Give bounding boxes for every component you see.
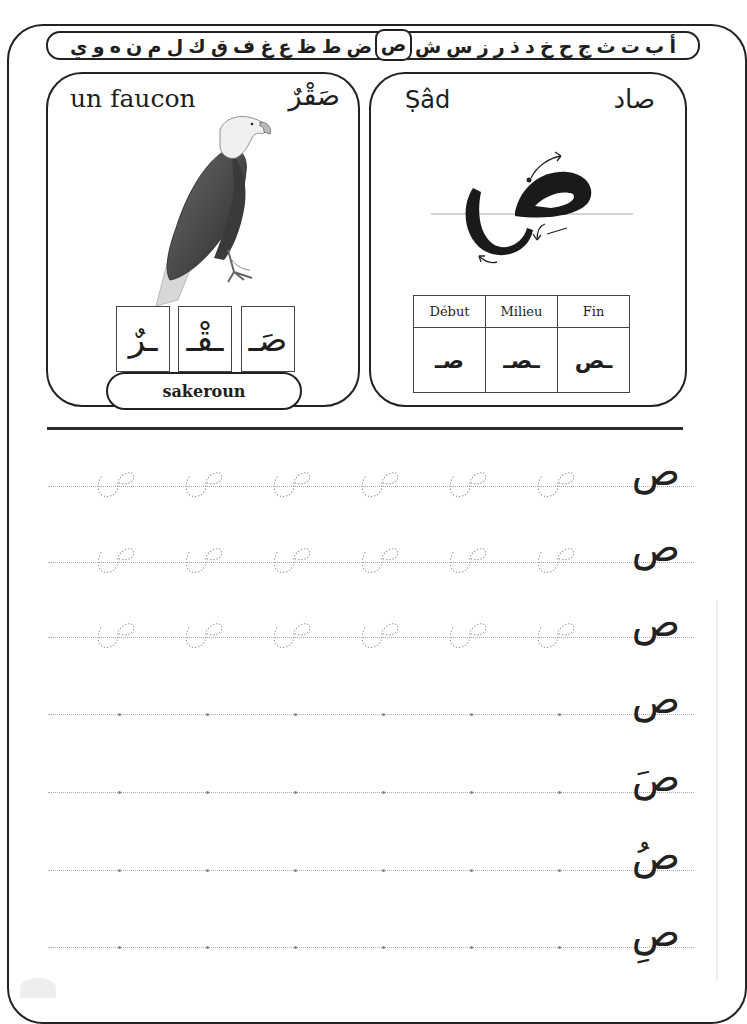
start-dot[interactable] [118, 869, 121, 872]
alphabet-letter: د [522, 34, 537, 58]
alphabet-letter: ت [618, 34, 642, 58]
model-letter: ص [632, 599, 680, 645]
trace-letter[interactable] [88, 613, 140, 653]
model-letter: ص [632, 676, 680, 722]
start-dot[interactable] [382, 713, 385, 716]
start-dot[interactable] [558, 791, 561, 794]
alphabet-letter: ظ [294, 34, 319, 58]
start-dot[interactable] [294, 713, 297, 716]
alphabet-letter: ز [475, 34, 491, 58]
model-letter: صُ [632, 832, 680, 878]
letter-card: Ṣâd صاد Début Milieu Fin صـ ـصـ ـص [369, 72, 687, 407]
alphabet-letter: غ [258, 34, 276, 58]
alphabet-letter: خ [537, 34, 556, 58]
form-fin: ـص [558, 328, 630, 393]
alphabet-letter: ط [319, 34, 344, 58]
trace-letter[interactable] [264, 462, 316, 502]
start-dot[interactable] [294, 946, 297, 949]
letter-forms-table: Début Milieu Fin صـ ـصـ ـص [413, 295, 630, 393]
trace-letter[interactable] [352, 538, 404, 578]
syllable-box: ـقْـ [178, 306, 232, 372]
start-dot[interactable] [294, 869, 297, 872]
start-dot[interactable] [294, 791, 297, 794]
dotted-guide-line [48, 714, 694, 715]
start-dot[interactable] [206, 946, 209, 949]
alphabet-letter: أ [667, 34, 679, 58]
alphabet-letter: ل [164, 34, 186, 58]
trace-letter[interactable] [176, 613, 228, 653]
start-dot[interactable] [118, 946, 121, 949]
trace-letter[interactable] [88, 538, 140, 578]
start-dot[interactable] [470, 713, 473, 716]
model-letter: ص [632, 524, 680, 570]
forms-header-milieu: Milieu [486, 296, 558, 328]
alphabet-letter: ر [491, 34, 507, 58]
syllable-box: صَـ [241, 306, 295, 372]
dotted-guide-line [48, 947, 694, 948]
alphabet-letter: ي [67, 34, 90, 58]
word-french: un faucon [70, 84, 196, 113]
model-letter: ص [632, 448, 680, 494]
alphabet-letter: ف [231, 34, 258, 58]
margin-strip [716, 600, 718, 980]
trace-letter[interactable] [264, 613, 316, 653]
forms-header-debut: Début [414, 296, 486, 328]
alphabet-letter: س [444, 34, 475, 58]
start-dot[interactable] [206, 791, 209, 794]
trace-letter[interactable] [176, 538, 228, 578]
start-dot[interactable] [382, 946, 385, 949]
trace-letter[interactable] [440, 462, 492, 502]
trace-letter[interactable] [176, 462, 228, 502]
alphabet-letter: ذ [507, 34, 522, 58]
start-dot[interactable] [558, 713, 561, 716]
start-dot[interactable] [382, 791, 385, 794]
form-debut: صـ [414, 328, 486, 393]
start-dot[interactable] [470, 946, 473, 949]
alphabet-letter: و [90, 34, 107, 58]
word-arabic: صَقْرٌ [289, 80, 340, 111]
trace-letter[interactable] [528, 613, 580, 653]
start-dot[interactable] [118, 713, 121, 716]
transliteration-pill: sakeroun [106, 372, 302, 410]
start-dot[interactable] [118, 791, 121, 794]
trace-letter[interactable] [440, 538, 492, 578]
word-card: un faucon صَقْرٌ ـرٌ ـقْـ صَـ sakeroun [46, 72, 360, 407]
alphabet-letter: ق [208, 34, 230, 58]
trace-letter[interactable] [352, 613, 404, 653]
practice-row: صَ [48, 758, 694, 818]
letter-name-latin: Ṣâd [405, 86, 450, 114]
trace-letter[interactable] [264, 538, 316, 578]
model-letter: صَ [632, 754, 680, 800]
section-divider [47, 427, 683, 430]
trace-letter[interactable] [440, 613, 492, 653]
form-milieu: ـصـ [486, 328, 558, 393]
dotted-guide-line [48, 870, 694, 871]
alphabet-letter: م [145, 34, 164, 58]
practice-row: ص [48, 528, 694, 588]
start-dot[interactable] [558, 946, 561, 949]
alphabet-letter: ش [412, 34, 443, 58]
trace-letter[interactable] [528, 462, 580, 502]
trace-letter[interactable] [88, 462, 140, 502]
start-dot[interactable] [558, 869, 561, 872]
start-dot[interactable] [382, 869, 385, 872]
dotted-guide-line [48, 792, 694, 793]
trace-letter[interactable] [352, 462, 404, 502]
trace-letter[interactable] [528, 538, 580, 578]
eagle-image [148, 110, 278, 310]
page-corner-shadow [20, 978, 56, 998]
alphabet-letter: ن [124, 34, 145, 58]
practice-row: ص [48, 603, 694, 663]
start-dot[interactable] [206, 869, 209, 872]
letter-stroke-diagram [411, 136, 651, 276]
alphabet-bar: أبتثجحخدذرزسشصضطظعغفقكلمنهوي [46, 31, 700, 60]
alphabet-letter: ه [107, 34, 123, 58]
start-dot[interactable] [470, 869, 473, 872]
start-dot[interactable] [470, 791, 473, 794]
practice-row: صُ [48, 836, 694, 896]
alphabet-letter: ج [575, 34, 594, 58]
alphabet-letter: ب [643, 34, 667, 58]
alphabet-letter: ح [556, 34, 575, 58]
start-dot[interactable] [206, 713, 209, 716]
alphabet-letter-active: ص [375, 29, 413, 61]
